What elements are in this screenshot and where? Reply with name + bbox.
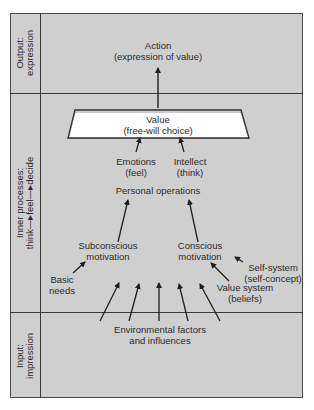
arrow-env-2 xyxy=(129,284,139,321)
value-sublabel: (free-will choice) xyxy=(108,125,208,136)
value-system-label: Value system xyxy=(213,282,277,293)
node-personal-operations: Personal operations xyxy=(98,185,218,196)
personal-operations-label: Personal operations xyxy=(98,185,218,196)
node-value: Value (free-will choice) xyxy=(108,114,208,136)
arrow-basic-needs-to-subconscious xyxy=(73,262,85,273)
node-self-system: Self-system (self-concept) xyxy=(243,262,303,284)
arrow-subconscious-to-personal-ops xyxy=(118,200,128,242)
node-conscious-motivation: Conscious motivation xyxy=(170,240,230,262)
arrow-conscious-to-personal-ops xyxy=(189,200,198,242)
arrow-self-system-to-conscious xyxy=(235,257,243,262)
arrow-value-system-to-conscious xyxy=(211,263,229,281)
value-system-sublabel: (beliefs) xyxy=(213,293,277,304)
basic-needs-label: Basic xyxy=(44,274,80,285)
node-intellect: Intellect (think) xyxy=(160,156,220,178)
intellect-label: Intellect xyxy=(160,156,220,167)
arrow-env-4 xyxy=(179,284,188,321)
action-label: Action xyxy=(108,40,208,51)
node-subconscious-motivation: Subconscious motivation xyxy=(70,240,146,262)
conscious-sublabel: motivation xyxy=(170,251,230,262)
node-basic-needs: Basic needs xyxy=(44,274,80,296)
self-system-label: Self-system xyxy=(243,262,303,273)
node-emotions: Emotions (feel) xyxy=(106,156,166,178)
basic-needs-sublabel: needs xyxy=(44,285,80,296)
arrow-emotions-to-value xyxy=(136,138,140,152)
emotions-label: Emotions xyxy=(106,156,166,167)
node-value-system: Value system (beliefs) xyxy=(213,282,277,304)
node-action: Action (expression of value) xyxy=(108,40,208,62)
arrow-env-1 xyxy=(100,283,119,321)
environmental-sublabel: and influences xyxy=(100,335,220,346)
intellect-sublabel: (think) xyxy=(160,167,220,178)
environmental-label: Environmental factors xyxy=(100,324,220,335)
subconscious-sublabel: motivation xyxy=(70,251,146,262)
value-label: Value xyxy=(108,114,208,125)
conscious-label: Conscious xyxy=(170,240,230,251)
subconscious-label: Subconscious xyxy=(70,240,146,251)
node-environmental-factors: Environmental factors and influences xyxy=(100,324,220,346)
arrow-intellect-to-value xyxy=(180,138,184,152)
action-sublabel: (expression of value) xyxy=(108,51,208,62)
emotions-sublabel: (feel) xyxy=(106,167,166,178)
